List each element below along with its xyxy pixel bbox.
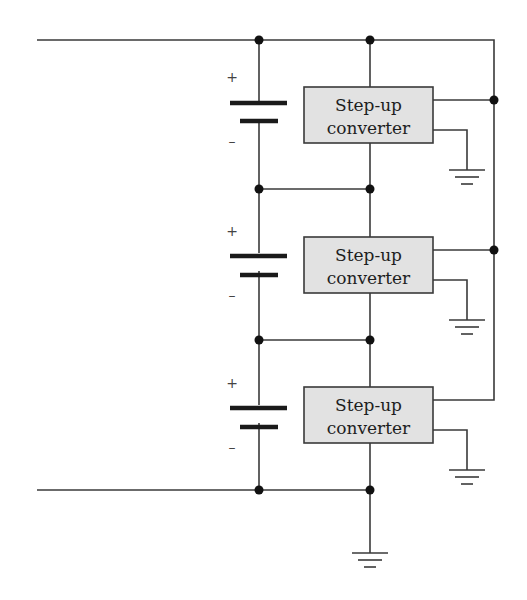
junction-dot [255, 336, 264, 345]
junction-dot [255, 36, 264, 45]
battery-3-minus-label: – [229, 439, 236, 455]
junction-dot [255, 486, 264, 495]
junction-dot [490, 96, 499, 105]
junction-dot [366, 336, 375, 345]
converter-1-label-line1: Step-up [335, 95, 402, 115]
junction-dot [366, 36, 375, 45]
step-up-converter-schematic: + – + – + – Step-up converter Step-up co… [0, 0, 527, 600]
ground-icon [449, 470, 485, 484]
battery-3: + – [226, 375, 287, 455]
junction-dot [366, 185, 375, 194]
converter-3-label-line1: Step-up [335, 395, 402, 415]
battery-1-plus-label: + [226, 69, 238, 85]
converter-3-label-line2: converter [327, 418, 411, 438]
junction-dot [366, 486, 375, 495]
battery-2-minus-label: – [229, 287, 236, 303]
battery-1: + – [226, 69, 287, 149]
battery-1-minus-label: – [229, 133, 236, 149]
converter-1-label-line2: converter [327, 118, 411, 138]
battery-2: + – [226, 223, 287, 303]
converter-1: Step-up converter [304, 87, 494, 170]
ground-icon [449, 170, 485, 184]
converter-2: Step-up converter [304, 237, 494, 320]
battery-3-plus-label: + [226, 375, 238, 391]
converter-2-label-line1: Step-up [335, 245, 402, 265]
junction-dot [490, 246, 499, 255]
battery-2-plus-label: + [226, 223, 238, 239]
junction-dot [255, 185, 264, 194]
converter-2-label-line2: converter [327, 268, 411, 288]
ground-icon [449, 320, 485, 334]
ground-icon [352, 553, 388, 567]
